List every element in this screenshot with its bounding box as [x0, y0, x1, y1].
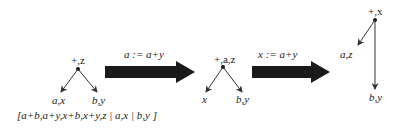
- tree-3-child-down-label: b,y: [369, 91, 382, 103]
- tree-2-child-left-label: x: [201, 93, 207, 105]
- tree-1-caption: [a+b,a+y,x+b,x+y,z | a,x | b,y ]: [17, 109, 157, 121]
- tree-1: +,z a,x b,y [a+b,a+y,x+b,x+y,z | a,x | b…: [17, 54, 157, 121]
- thick-right-arrow-icon: [252, 61, 330, 83]
- tree-2-edge-left: [206, 67, 223, 92]
- tree-1-edge-right: [78, 69, 97, 92]
- transition-arrow-2: x := a+y: [252, 48, 330, 83]
- tree-1-root-label: +,z: [71, 54, 85, 66]
- tree-1-edge-left: [61, 69, 78, 92]
- thick-right-arrow-icon: [105, 61, 195, 83]
- dag-transformation-diagram: +,z a,x b,y [a+b,a+y,x+b,x+y,z | a,x | b…: [0, 0, 407, 129]
- transition-2-label: x := a+y: [257, 48, 297, 60]
- tree-2-root-label: +,a,z: [214, 53, 236, 65]
- tree-1-child-right-label: b,y: [92, 94, 105, 106]
- tree-2: +,a,z x b,y: [201, 53, 249, 105]
- tree-3-child-left-label: a,z: [340, 48, 353, 60]
- tree-1-child-left-label: a,x: [52, 94, 65, 106]
- tree-3-root-label: +,x: [368, 5, 383, 17]
- tree-3: +,x a,z b,y: [340, 5, 383, 103]
- tree-3-edge-left: [358, 20, 375, 45]
- tree-2-child-right-label: b,y: [236, 93, 249, 105]
- tree-2-edge-right: [223, 67, 242, 92]
- transition-arrow-1: a := a+y: [105, 48, 195, 83]
- transition-1-label: a := a+y: [124, 48, 164, 60]
